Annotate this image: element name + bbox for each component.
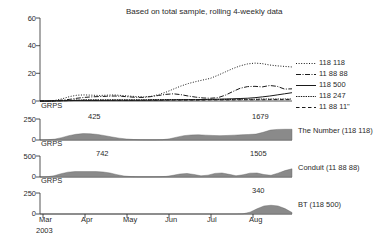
panel3-area-series xyxy=(40,205,292,214)
legend-label-118-118: 118 118 xyxy=(319,58,345,67)
x-axis-year: 2003 xyxy=(36,226,53,234)
x-label-aug: Aug xyxy=(249,215,262,224)
main-series-0 xyxy=(40,63,292,101)
main-series-group xyxy=(40,63,292,101)
legend-label-118-500: 118 500 xyxy=(319,80,346,89)
chart-figure: Based on total sample, rolling 4-weekly … xyxy=(0,0,380,234)
main-plot-area xyxy=(0,0,300,112)
x-label-mar: Mar xyxy=(39,215,52,224)
panel3-source-label: BT (118 500) xyxy=(298,200,341,209)
legend-swatch-dotted-dense xyxy=(296,95,316,98)
x-label-jul: Jul xyxy=(207,215,217,224)
legend-label-118-247: 118 247 xyxy=(319,91,346,100)
x-label-apr: Apr xyxy=(81,215,93,224)
panel1-annotation-1: 1679 xyxy=(252,112,269,121)
panel1-area-series xyxy=(40,129,292,140)
x-label-may: May xyxy=(123,215,137,224)
legend-swatch-dashdot xyxy=(296,73,316,76)
legend: 118 118 11 88 88 118 500 118 247 11 88 1… xyxy=(296,58,380,108)
legend-swatch-dashed xyxy=(296,106,316,109)
panel3-annotation-0: 340 xyxy=(252,186,265,195)
panel2-area-series xyxy=(40,169,292,177)
panel-conduit: 500 0 742 1505 Conduit (11 88 88) GRPS xyxy=(0,147,380,185)
x-label-jun: Jun xyxy=(165,215,177,224)
legend-swatch-solid xyxy=(296,84,316,87)
main-axis-label-grps: GRPS xyxy=(41,101,62,110)
panel1-annotation-0: 425 xyxy=(88,112,101,121)
panel2-annotation-1: 1505 xyxy=(250,149,267,158)
panel2-annotation-0: 742 xyxy=(96,149,109,158)
panel-the-number: 250 0 425 1679 The Number (118 118) GRPS xyxy=(0,110,380,148)
panel1-source-label: The Number (118 118) xyxy=(298,126,373,135)
legend-label-11-88-88: 11 88 88 xyxy=(319,69,348,78)
legend-swatch-dotted xyxy=(296,62,316,65)
panel-bt: 250 0 340 BT (118 500) MarAprMayJunJulAu… xyxy=(0,184,380,234)
panel2-source-label: Conduit (11 88 88) xyxy=(298,163,360,172)
